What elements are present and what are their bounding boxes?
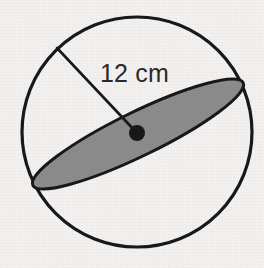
radius-measurement-label: 12 cm: [100, 59, 169, 87]
sphere-diagram-svg: 12 cm: [0, 0, 264, 268]
geometry-diagram: 12 cm: [0, 0, 264, 268]
sphere-center-dot: [129, 125, 145, 141]
